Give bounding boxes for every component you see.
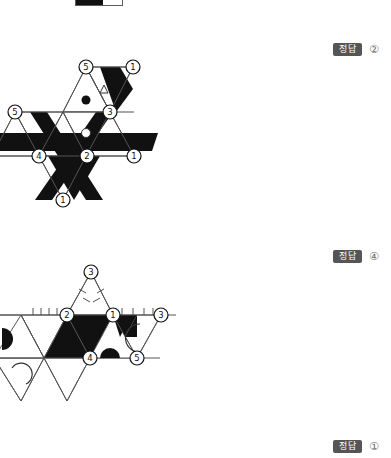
vertex-label: 5: [130, 351, 144, 365]
vertex-label-text: 3: [88, 267, 93, 277]
vertex-label-text: 1: [60, 195, 65, 205]
vertex-label: 1: [126, 60, 140, 74]
vertex-label: 4: [32, 149, 46, 163]
vertex-label-text: 5: [12, 107, 17, 117]
answer-badge-choice: ④: [369, 250, 379, 263]
answer-badge-label: 정답: [333, 440, 362, 453]
vertex-label-text: 3: [158, 310, 163, 320]
vertex-label: 3: [84, 265, 98, 279]
answer-badge-3: 정답 ①: [333, 439, 379, 453]
vertex-label-text: 4: [87, 353, 92, 363]
vertex-label: 1: [56, 193, 70, 207]
answer-badge-choice: ①: [369, 440, 379, 453]
answer-badge-label: 정답: [333, 250, 362, 263]
vertex-label: 3: [103, 105, 117, 119]
vertex-label: 2: [80, 149, 94, 163]
answer-sheet-page: 5 1 5 3 4: [0, 0, 391, 458]
vertex-label-text: 1: [110, 310, 115, 320]
net-diagram-1: 5 1 5 3 4: [0, 55, 170, 205]
vertex-label-text: 1: [130, 62, 135, 72]
vertex-label-text: 3: [107, 107, 112, 117]
vertex-label: 5: [8, 105, 22, 119]
answer-badge-2: 정답 ④: [333, 249, 379, 263]
vertex-label-text: 2: [64, 310, 69, 320]
vertex-label: 1: [106, 308, 120, 322]
answer-badge-1: 정답 ②: [333, 42, 379, 56]
answer-badge-label: 정답: [333, 43, 362, 56]
vertex-label-text: 1: [131, 151, 136, 161]
vertex-label: 4: [83, 351, 97, 365]
answer-badge-choice: ②: [369, 43, 379, 56]
swatch-light-segment: [103, 0, 122, 5]
vertex-label: 1: [127, 149, 141, 163]
vertex-label-text: 4: [36, 151, 41, 161]
net-diagram-2: 3 2 1 3 4: [0, 262, 190, 397]
swatch-dark-segment: [76, 0, 103, 5]
vertex-label: 5: [79, 60, 93, 74]
vertex-label-text: 5: [134, 353, 139, 363]
vertex-label-text: 5: [83, 62, 88, 72]
clipped-legend-swatch: [75, 0, 123, 6]
vertex-label-text: 2: [84, 151, 89, 161]
vertex-label: 2: [60, 308, 74, 322]
vertex-label: 3: [154, 308, 168, 322]
